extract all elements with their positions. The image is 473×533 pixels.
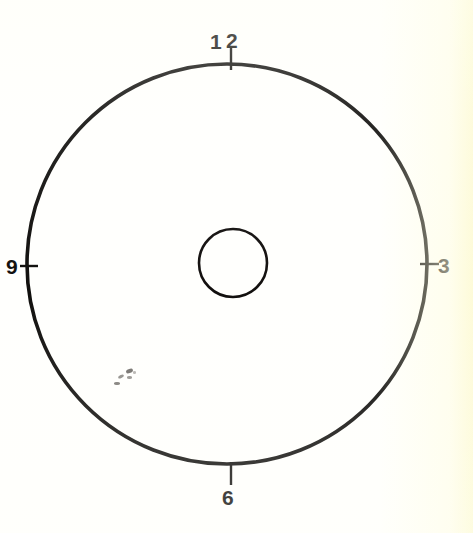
hour-label-12-digit-1: 1 <box>210 31 222 52</box>
clock-face-diagram: 1 2 3 6 9 <box>0 0 473 533</box>
hour-label-9: 9 <box>6 256 18 277</box>
center-hub <box>199 229 267 297</box>
hour-marker-ticks <box>20 47 439 485</box>
clock-rim <box>27 64 427 464</box>
hour-label-6: 6 <box>222 487 234 508</box>
hour-label-3: 3 <box>438 255 450 276</box>
clock-diagram-canvas <box>0 0 473 533</box>
hour-label-12-digit-2: 2 <box>226 30 238 51</box>
